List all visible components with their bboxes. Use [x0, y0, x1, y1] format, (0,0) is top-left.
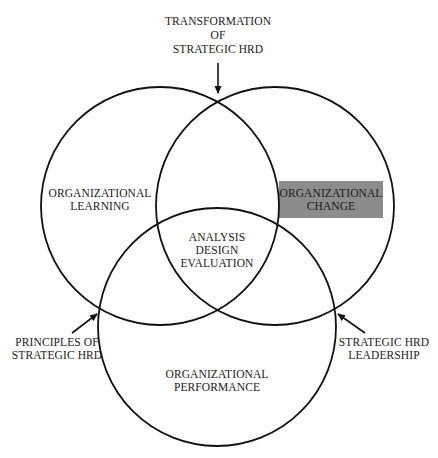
learning-line-1: ORGANIZATIONAL	[49, 187, 152, 199]
annotation-right-line-2: LEADERSHIP	[348, 349, 419, 361]
change-line-2: CHANGE	[307, 200, 356, 212]
annotation-left-line-2: STRATEGIC HRD	[12, 349, 102, 361]
change-line-1: ORGANIZATIONAL	[280, 187, 383, 199]
label-center: ANALYSIS DESIGN EVALUATION	[181, 231, 255, 269]
label-organizational-performance: ORGANIZATIONAL PERFORMANCE	[166, 368, 269, 393]
performance-line-2: PERFORMANCE	[174, 381, 260, 393]
annotation-right-line-1: STRATEGIC HRD	[339, 336, 429, 348]
learning-line-2: LEARNING	[70, 200, 130, 212]
annotation-principles: PRINCIPLES OF STRATEGIC HRD	[12, 336, 102, 361]
annotation-leadership: STRATEGIC HRD LEADERSHIP	[339, 336, 429, 361]
performance-line-1: ORGANIZATIONAL	[166, 368, 269, 380]
annotation-transformation: TRANSFORMATION OF STRATEGIC HRD	[165, 15, 272, 55]
label-organizational-learning: ORGANIZATIONAL LEARNING	[49, 187, 152, 212]
annotation-top-line-3: STRATEGIC HRD	[173, 43, 263, 55]
center-line-1: ANALYSIS	[189, 231, 246, 243]
arrow-right-icon	[338, 314, 365, 333]
annotation-top-line-1: TRANSFORMATION	[165, 15, 272, 27]
center-line-2: DESIGN	[196, 244, 239, 256]
venn-diagram: TRANSFORMATION OF STRATEGIC HRD ORGANIZA…	[0, 0, 438, 458]
arrow-left-icon	[72, 314, 97, 333]
annotation-top-line-2: OF	[211, 29, 226, 41]
annotation-left-line-1: PRINCIPLES OF	[15, 336, 98, 348]
center-line-3: EVALUATION	[181, 257, 255, 269]
